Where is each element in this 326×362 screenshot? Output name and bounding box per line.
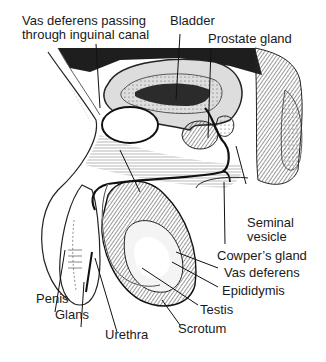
label-seminal-vesicle-1: Seminal bbox=[247, 216, 294, 230]
label-vas-deferens-inguinal-2: through inguinal canal bbox=[22, 28, 149, 42]
label-cowpers-gland: Cowper’s gland bbox=[217, 249, 307, 263]
label-seminal-vesicle-2: vesicle bbox=[247, 230, 287, 244]
label-testis: Testis bbox=[200, 303, 233, 317]
label-glans: Glans bbox=[55, 308, 89, 322]
label-prostate-gland: Prostate gland bbox=[208, 32, 292, 46]
label-penis: Penis bbox=[36, 292, 69, 306]
label-epididymis: Epididymis bbox=[222, 284, 285, 298]
anatomy-diagram: Vas deferens passing through inguinal ca… bbox=[0, 0, 326, 362]
label-vas-deferens-inguinal-1: Vas deferens passing bbox=[22, 14, 146, 28]
label-scrotum: Scrotum bbox=[178, 322, 226, 336]
label-bladder: Bladder bbox=[170, 14, 215, 28]
anatomy-illustration bbox=[0, 0, 326, 362]
label-urethra: Urethra bbox=[105, 328, 148, 342]
label-vas-deferens: Vas deferens bbox=[224, 266, 300, 280]
